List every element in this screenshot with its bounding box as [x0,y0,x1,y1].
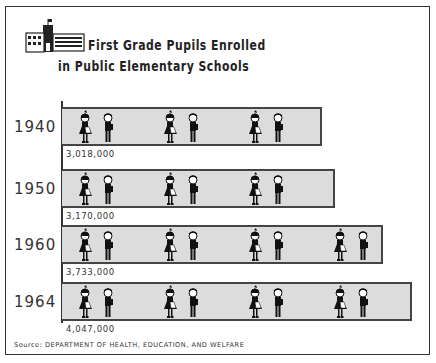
year-label-1964: 1964 [14,293,56,311]
children-pair-icon [246,110,288,150]
value-label-1964: 4,047,000 [66,324,115,334]
boy-figure [189,176,198,204]
children-pair-icon [161,285,203,325]
boy-figure [104,289,113,317]
boy-figure [274,114,283,142]
girl-figure [164,110,177,143]
children-pair-icon [76,172,118,212]
girl-figure [249,172,262,205]
source-note: Source: DEPARTMENT OF HEALTH, EDUCATION,… [14,341,244,349]
girl-figure [249,285,262,318]
boy-figure [104,176,113,204]
bar-1950 [62,169,335,208]
year-label-1950: 1950 [14,180,56,198]
girl-figure [164,228,177,261]
children-pair-icon [246,172,288,212]
children-pair-icon [76,285,118,325]
girl-figure [79,172,92,205]
value-label-1960: 3,733,000 [66,267,115,277]
value-label-1950: 3,170,000 [66,211,115,221]
chart-title-line2: in Public Elementary Schools [58,58,249,74]
bar-1940 [62,107,322,146]
children-pair-icon [161,110,203,150]
boy-figure [104,114,113,142]
boy-figure [189,232,198,260]
children-pair-icon [161,228,203,268]
children-pair-icon [331,228,373,268]
girl-figure [79,110,92,143]
girl-figure [334,228,347,261]
boy-figure [189,114,198,142]
children-pair-icon [246,285,288,325]
girl-figure [164,285,177,318]
value-label-1940: 3,018,000 [66,149,115,159]
boy-figure [104,232,113,260]
year-label-1960: 1960 [14,236,56,254]
girl-figure [79,228,92,261]
boy-figure [274,176,283,204]
year-label-1940: 1940 [14,118,56,136]
girl-figure [249,110,262,143]
girl-figure [79,285,92,318]
boy-figure [189,289,198,317]
children-pair-icon [76,110,118,150]
children-pair-icon [161,172,203,212]
boy-figure [274,289,283,317]
children-pair-icon [331,285,373,325]
bar-1960 [62,225,383,264]
boy-figure [274,232,283,260]
girl-figure [249,228,262,261]
children-pair-icon [76,228,118,268]
boy-figure [359,289,368,317]
school-building-icon [24,17,86,53]
girl-figure [334,285,347,318]
children-pair-icon [246,228,288,268]
chart-title-line1: First Grade Pupils Enrolled [88,37,266,53]
bar-1964 [62,282,412,321]
girl-figure [164,172,177,205]
boy-figure [359,232,368,260]
